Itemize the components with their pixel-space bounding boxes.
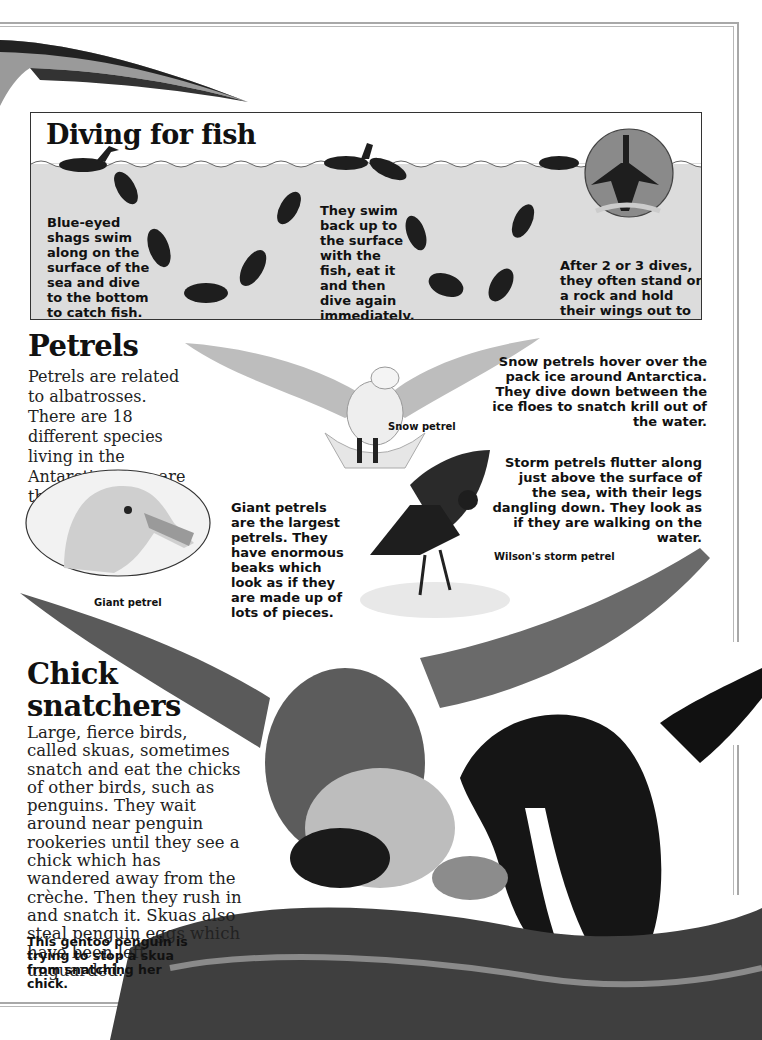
diving-for-fish-panel: Diving for fish Blue-eyed shags swim alo… bbox=[30, 112, 702, 320]
snow-petrel-caption: Snow petrel bbox=[388, 421, 456, 432]
page-frame-top-inner bbox=[0, 26, 734, 27]
diving-text-middle: They swim back up to the surface with th… bbox=[320, 203, 415, 320]
albatross-wing-illustration bbox=[0, 30, 260, 110]
page-frame-top bbox=[0, 22, 738, 24]
gentoo-penguin-caption: This gentoo penguin is trying to stop a … bbox=[27, 935, 202, 991]
chick-snatchers-title-line1: Chick bbox=[27, 658, 117, 690]
petrels-title: Petrels bbox=[28, 330, 138, 362]
snow-petrel-text: Snow petrels hover over the pack ice aro… bbox=[470, 354, 707, 429]
storm-petrel-text: Storm petrels flutter along just above t… bbox=[490, 455, 702, 545]
drying-shag-roundel bbox=[585, 129, 673, 217]
chick-snatchers-title-line2: snatchers bbox=[27, 690, 181, 722]
diving-text-left: Blue-eyed shags swim along on the surfac… bbox=[47, 215, 157, 320]
diving-text-right: After 2 or 3 dives, they often stand on … bbox=[560, 258, 702, 320]
